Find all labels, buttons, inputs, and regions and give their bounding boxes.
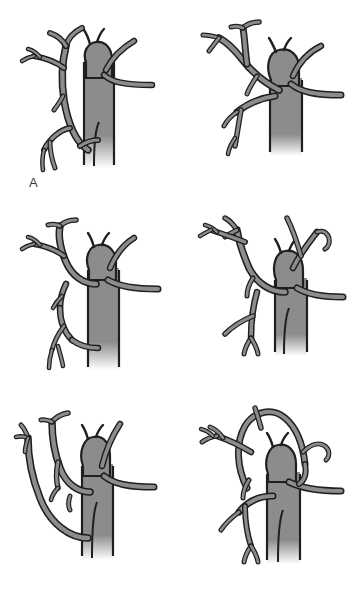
panel-e: E (0, 392, 175, 590)
panel-c-illustration (0, 196, 175, 392)
panel-f: F (175, 392, 349, 590)
panel-f-illustration (175, 392, 349, 590)
left-vessel-tree (203, 22, 279, 154)
aortic-arch-head (266, 433, 296, 482)
panel-d: D (175, 196, 349, 392)
panel-c: C (0, 196, 175, 392)
panel-e-illustration (0, 392, 175, 590)
panel-d-illustration (175, 196, 349, 392)
panel-a-illustration (0, 0, 175, 196)
panel-a: A (0, 0, 175, 196)
left-vessel-tree (22, 220, 98, 368)
left-vessel-tree (200, 218, 285, 354)
figure-grid: A (0, 0, 349, 590)
panel-label-a: A (29, 176, 38, 189)
panel-b: B (175, 0, 349, 196)
panel-b-illustration (175, 0, 349, 196)
aortic-arch-head (87, 233, 116, 280)
left-vessel-tree (201, 427, 273, 562)
